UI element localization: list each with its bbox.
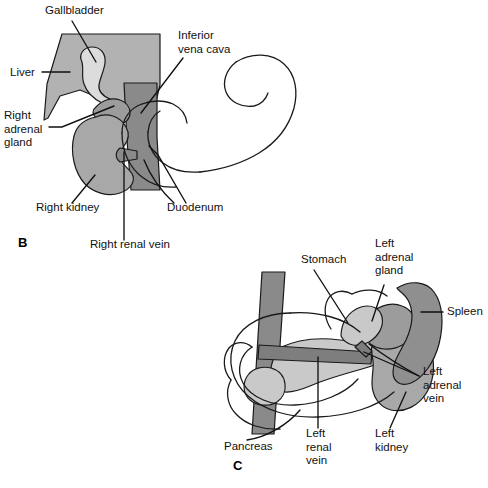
label-line: Inferior bbox=[178, 29, 214, 41]
label-line: vena cava bbox=[178, 43, 231, 55]
panel-letter-c: C bbox=[233, 458, 243, 473]
label-line: Right kidney bbox=[36, 201, 100, 213]
label-line: Left bbox=[375, 237, 395, 249]
panel-letter-b: B bbox=[18, 235, 27, 250]
label-line: Left bbox=[306, 427, 326, 439]
label-line: Gallbladder bbox=[45, 4, 104, 16]
label-stomach: Stomach bbox=[301, 253, 346, 265]
right-renal-vein-shape bbox=[116, 148, 137, 162]
label-right-renal-vein: Right renal vein bbox=[90, 238, 170, 250]
label-line: Right bbox=[4, 109, 32, 121]
label-right-kidney: Right kidney bbox=[36, 201, 100, 213]
label-line: Right renal vein bbox=[90, 238, 170, 250]
label-duodenum: Duodenum bbox=[167, 201, 223, 213]
label-gallbladder: Gallbladder bbox=[45, 4, 104, 16]
label-line: Spleen bbox=[447, 305, 483, 317]
label-line: adrenal bbox=[4, 123, 42, 135]
anatomy-figure: GallbladderLiverInferiorvena cavaRightad… bbox=[0, 0, 488, 488]
pancreas-head-shape bbox=[244, 367, 285, 405]
label-line: adrenal bbox=[423, 379, 461, 391]
label-line: renal bbox=[306, 441, 332, 453]
label-line: vein bbox=[423, 392, 444, 404]
label-line: vein bbox=[306, 454, 327, 466]
label-line: Liver bbox=[10, 66, 35, 78]
label-liver: Liver bbox=[10, 66, 35, 78]
label-line: Pancreas bbox=[224, 440, 273, 452]
label-line: gland bbox=[375, 264, 403, 276]
label-line: adrenal bbox=[375, 251, 413, 263]
label-line: Stomach bbox=[301, 253, 346, 265]
label-line: kidney bbox=[375, 441, 408, 453]
label-line: gland bbox=[4, 136, 32, 148]
label-spleen: Spleen bbox=[447, 305, 483, 317]
label-line: Left bbox=[375, 427, 395, 439]
label-line: Duodenum bbox=[167, 201, 223, 213]
label-pancreas: Pancreas bbox=[224, 440, 273, 452]
figure-canvas: GallbladderLiverInferiorvena cavaRightad… bbox=[0, 0, 488, 488]
label-line: Left bbox=[423, 365, 443, 377]
